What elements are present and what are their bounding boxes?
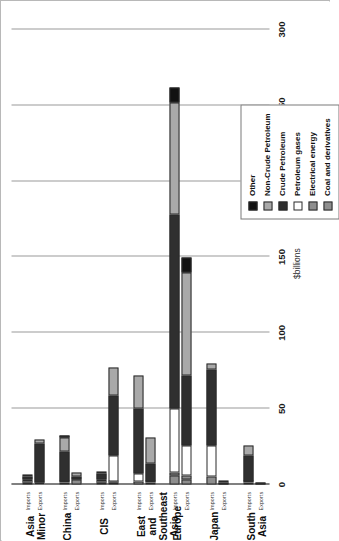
bar-segment[interactable] <box>169 87 179 102</box>
bar-segment[interactable] <box>34 439 44 444</box>
category-label: Asia Minor <box>24 512 46 540</box>
bar-segment[interactable] <box>133 375 143 408</box>
legend-swatch-icon <box>308 201 317 210</box>
bar-segment[interactable] <box>108 395 118 456</box>
bar-flow-label: Imports <box>24 491 30 510</box>
bar-segment[interactable] <box>243 455 253 481</box>
category-label: Japan <box>208 512 219 540</box>
y-tick-label: 300 <box>275 21 286 37</box>
bar-segment[interactable] <box>145 463 155 481</box>
bar-segment[interactable] <box>206 363 216 369</box>
category-label: China <box>61 512 72 540</box>
bar-flow-label: Imports <box>98 491 104 510</box>
bar-segment[interactable] <box>206 445 216 477</box>
bar-group: ImportsExportsChina <box>48 1 85 541</box>
bar-segment[interactable] <box>181 445 191 475</box>
legend-label: Crude Petroleum <box>277 131 286 195</box>
bar-segment[interactable] <box>218 480 228 482</box>
bar-segment[interactable] <box>169 102 179 214</box>
bar-segment[interactable] <box>169 214 179 408</box>
legend-swatch-icon <box>248 201 257 210</box>
bar-group: ImportsExportsCIS <box>85 1 122 541</box>
legend-label: Non-Crude Petroleum <box>262 113 271 196</box>
bar-segment[interactable] <box>59 451 69 481</box>
bar-segment[interactable] <box>108 367 118 394</box>
legend-swatch-icon <box>323 201 332 210</box>
bar-segment[interactable] <box>34 443 44 482</box>
bar-segment[interactable] <box>206 369 216 445</box>
bar-group: ImportsExportsSouth Asia <box>232 1 269 541</box>
category-label: Europe <box>171 512 182 540</box>
bar-segment[interactable] <box>59 435 69 437</box>
category-label: South Asia <box>245 512 267 540</box>
y-tick-label: 50 <box>275 403 286 414</box>
y-tick-label: 100 <box>275 324 286 340</box>
y-tick-label: 0 <box>275 481 286 486</box>
bar-flow-label: Exports <box>257 491 263 510</box>
bar-group: ImportsExportsEurope <box>158 1 195 541</box>
bar-segment[interactable] <box>169 408 179 472</box>
legend-label: Other <box>247 174 256 195</box>
bar-group: ImportsExportsAsia Minor <box>11 1 48 541</box>
legend-item[interactable]: Coal and derivatives <box>322 113 332 210</box>
legend-swatch-icon <box>293 201 302 210</box>
bar-segment[interactable] <box>59 437 69 451</box>
bar-segment[interactable] <box>243 445 253 456</box>
bar-segment[interactable] <box>169 475 179 484</box>
bar-segment[interactable] <box>181 479 191 484</box>
bar-flow-label: Imports <box>61 491 67 510</box>
bar-flow-label: Imports <box>245 491 251 510</box>
bar-segment[interactable] <box>96 473 106 479</box>
bar-segment[interactable] <box>133 473 143 481</box>
bar-chart-figure: 050100150200250300 $billions ImportsExpo… <box>1 1 331 541</box>
bar-flow-label: Exports <box>147 491 153 510</box>
legend-swatch-icon <box>278 201 287 210</box>
bar-segment[interactable] <box>108 455 118 481</box>
bar-segment[interactable] <box>181 272 191 375</box>
legend-swatch-icon <box>263 201 272 210</box>
bar-segment[interactable] <box>181 475 191 480</box>
bar-segment[interactable] <box>181 375 191 445</box>
bar-group: ImportsExportsJapan <box>195 1 232 541</box>
legend-item[interactable]: Crude Petroleum <box>277 113 287 210</box>
bar-segment[interactable] <box>181 257 191 272</box>
bar-flow-label: Imports <box>135 491 141 510</box>
y-axis-title: $billions <box>291 248 301 279</box>
legend-label: Petroleum gases <box>292 132 301 196</box>
bar-flow-label: Imports <box>208 491 214 510</box>
legend-item[interactable]: Non-Crude Petroleum <box>262 113 272 210</box>
bar-flow-label: Exports <box>183 491 189 510</box>
legend-item[interactable]: Petroleum gases <box>292 113 302 210</box>
bar-segment[interactable] <box>71 479 81 484</box>
legend-item[interactable]: Other <box>247 113 257 210</box>
bar-group: ImportsExportsEast and Southeast Asia <box>122 1 159 541</box>
bar-flow-label: Exports <box>220 491 226 510</box>
legend-label: Electrical energy <box>307 132 316 196</box>
bar-segment[interactable] <box>206 476 216 484</box>
chart-legend: OtherNon-Crude PetroleumCrude PetroleumP… <box>240 104 339 219</box>
legend-item[interactable]: Electrical energy <box>307 113 317 210</box>
bar-flow-label: Exports <box>110 491 116 510</box>
y-tick-label: 150 <box>275 249 286 265</box>
bar-segment[interactable] <box>133 408 143 473</box>
bar-segment[interactable] <box>71 472 81 477</box>
rotated-figure-wrapper: 050100150200250300 $billions ImportsExpo… <box>1 1 331 541</box>
bar-segment[interactable] <box>145 437 155 463</box>
bar-segment[interactable] <box>96 471 106 473</box>
legend-label: Coal and derivatives <box>322 118 331 196</box>
category-label: CIS <box>98 512 109 540</box>
bar-segment[interactable] <box>22 474 32 476</box>
bar-flow-label: Exports <box>73 491 79 510</box>
bar-segment[interactable] <box>255 482 265 484</box>
bar-flow-label: Exports <box>36 491 42 510</box>
